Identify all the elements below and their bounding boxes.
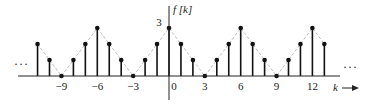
x-axis-arrow-icon (342, 85, 359, 91)
y-tick-label-3: 3 (156, 16, 162, 28)
stem-k-10 (47, 58, 52, 76)
x-tick-label: 9 (274, 80, 280, 92)
stem-k-8 (71, 58, 76, 76)
stem-k4 (215, 58, 220, 76)
x-tick-label: −3 (127, 80, 139, 92)
x-axis-label: k (333, 81, 339, 93)
stems (35, 26, 326, 79)
stem-k-4 (119, 58, 124, 76)
x-tick-label: 0 (171, 80, 177, 92)
stem-k13 (322, 42, 327, 76)
stem-k6 (238, 26, 243, 76)
stem-k2 (191, 58, 196, 76)
x-tick-labels: −9−6−3036912 (56, 80, 318, 92)
stem-k10 (286, 58, 291, 76)
y-axis-label: f [k] (173, 3, 192, 15)
stem-k-2 (143, 58, 148, 76)
right-continuation-ellipsis: ··· (343, 60, 358, 74)
stem-k-6 (95, 26, 100, 76)
stem-k-11 (35, 42, 40, 76)
x-tick-label: −9 (56, 80, 68, 92)
x-tick-label: 3 (202, 80, 208, 92)
stem-k-5 (107, 42, 112, 76)
left-continuation-ellipsis: ··· (14, 57, 29, 71)
x-tick-label: 6 (238, 80, 244, 92)
x-tick-label: 12 (307, 80, 318, 92)
stem-plot: −9−6−3036912 3 f [k] ··· ··· k (0, 0, 384, 110)
stem-k8 (262, 58, 267, 76)
x-tick-label: −6 (91, 80, 103, 92)
stem-k12 (310, 26, 315, 76)
